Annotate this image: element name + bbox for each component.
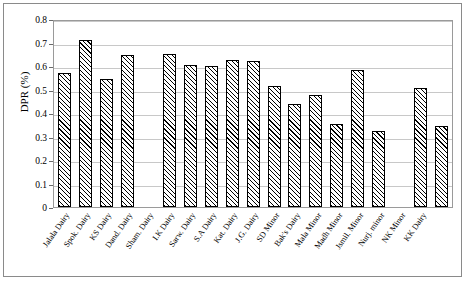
bar-slot bbox=[180, 21, 201, 207]
bar bbox=[184, 65, 197, 207]
x-slot bbox=[432, 209, 453, 275]
y-tick-mark bbox=[49, 114, 53, 115]
bar-slot bbox=[389, 21, 410, 207]
bar bbox=[372, 131, 385, 207]
y-tick-mark bbox=[49, 67, 53, 68]
bar bbox=[163, 54, 176, 207]
x-axis-labels: Jalala DairySpok. DairyKS DairyDand. Dai… bbox=[53, 209, 453, 275]
bar-slot bbox=[138, 21, 159, 207]
bar bbox=[58, 73, 71, 207]
bar bbox=[205, 66, 218, 207]
y-tick-label: 0 bbox=[42, 203, 47, 213]
y-tick-label: 0.1 bbox=[35, 180, 47, 190]
bar bbox=[288, 104, 301, 207]
y-tick-mark bbox=[49, 44, 53, 45]
bar-slot bbox=[54, 21, 75, 207]
bar-slot bbox=[201, 21, 222, 207]
bar bbox=[351, 70, 364, 207]
bar bbox=[226, 60, 239, 207]
chart-container: DPR (%) 00.10.20.30.40.50.60.70.8 Jalala… bbox=[3, 3, 462, 277]
y-tick-label: 0.3 bbox=[35, 133, 47, 143]
bar-slot bbox=[222, 21, 243, 207]
bar-slot bbox=[368, 21, 389, 207]
x-slot: KK Dairy bbox=[411, 209, 432, 275]
bar-slot bbox=[326, 21, 347, 207]
plot-area bbox=[53, 20, 453, 208]
bar-slot bbox=[305, 21, 326, 207]
y-axis-labels: 00.10.20.30.40.50.60.70.8 bbox=[16, 20, 50, 208]
y-tick-mark bbox=[49, 185, 53, 186]
bar bbox=[121, 55, 134, 207]
x-slot: Spok. Dairy bbox=[74, 209, 95, 275]
y-tick-label: 0.6 bbox=[35, 62, 47, 72]
y-tick-label: 0.2 bbox=[35, 156, 47, 166]
x-slot: Sham. Dairy bbox=[137, 209, 158, 275]
y-tick-mark bbox=[49, 91, 53, 92]
y-tick-mark bbox=[49, 208, 53, 209]
bar-slot bbox=[264, 21, 285, 207]
y-tick-label: 0.5 bbox=[35, 86, 47, 96]
bar bbox=[100, 79, 113, 207]
bar-slot bbox=[159, 21, 180, 207]
bar-slot bbox=[347, 21, 368, 207]
y-tick-label: 0.8 bbox=[35, 15, 47, 25]
bar-slot bbox=[410, 21, 431, 207]
y-tick-mark bbox=[49, 138, 53, 139]
y-tick-label: 0.7 bbox=[35, 39, 47, 49]
bar bbox=[414, 88, 427, 207]
bar bbox=[268, 86, 281, 207]
bar-series bbox=[54, 21, 452, 207]
bar bbox=[247, 61, 260, 207]
y-tick-mark bbox=[49, 20, 53, 21]
bar-slot bbox=[243, 21, 264, 207]
y-tick-label: 0.4 bbox=[35, 109, 47, 119]
bar-slot bbox=[96, 21, 117, 207]
bar-slot bbox=[284, 21, 305, 207]
bar-slot bbox=[75, 21, 96, 207]
bar-slot bbox=[117, 21, 138, 207]
y-tick-mark bbox=[49, 161, 53, 162]
bar bbox=[79, 40, 92, 207]
bar bbox=[309, 95, 322, 207]
bar bbox=[435, 126, 448, 207]
bar bbox=[330, 124, 343, 207]
bar-slot bbox=[431, 21, 452, 207]
